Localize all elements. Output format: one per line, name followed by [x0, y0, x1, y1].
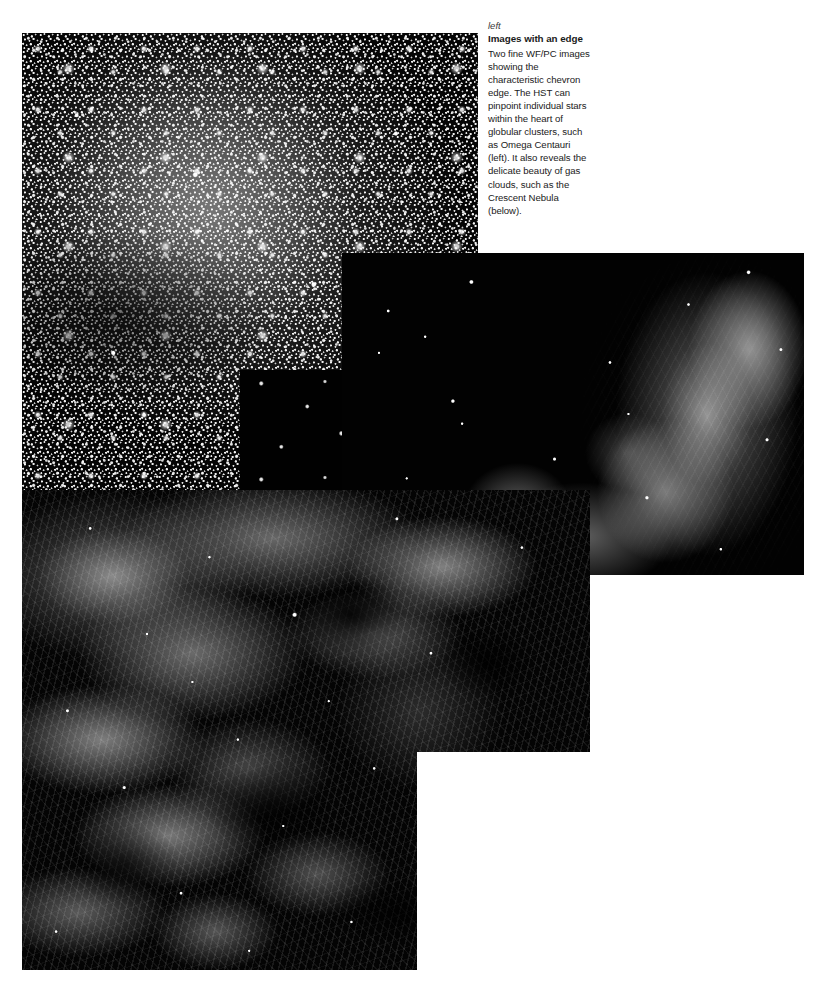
caption-block: left Images with an edge Two fine WF/PC …	[488, 20, 592, 217]
image-crescent-nebula-main	[22, 490, 590, 970]
caption-kicker: left	[488, 20, 592, 32]
main-nebula-star-layer	[22, 490, 590, 970]
caption-headline: Images with an edge	[488, 33, 592, 46]
caption-body: Two fine WF/PC images showing the charac…	[488, 47, 592, 217]
page-canvas: left Images with an edge Two fine WF/PC …	[0, 0, 824, 988]
